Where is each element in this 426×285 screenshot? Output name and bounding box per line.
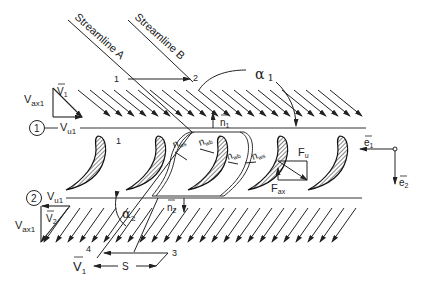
vector-overbars [47, 84, 407, 257]
inlet-flow-arrows [78, 90, 362, 116]
alpha1-pointer [276, 82, 296, 126]
alpha1-label: α1 [255, 66, 274, 83]
station-1-vu-label: Vu1 [60, 121, 77, 136]
station-2-vu-label: Vu1 [47, 190, 64, 205]
blade-5 [308, 136, 348, 190]
outlet-flow-arrows [44, 208, 356, 242]
outlet-v2-label: V2 [46, 213, 57, 225]
streamline-b-lower [134, 198, 158, 252]
exit-velocity-label: V1 [73, 259, 87, 276]
cascade-diagram: Streamline A Streamline B 1 2 3 4 1 1 2 … [0, 0, 426, 285]
station-1-number: 1 [34, 123, 40, 134]
normal-ws-left-line [175, 152, 187, 160]
alpha1-arc [199, 70, 246, 90]
normal-n1-label: n1 [220, 117, 230, 129]
point-4-label: 4 [86, 244, 91, 254]
pitch-s-label: S [122, 261, 129, 272]
unit-e1-label: e1 [364, 137, 374, 149]
passage-label: 1 [116, 136, 121, 146]
station-2-number: 2 [31, 193, 37, 204]
point-2-label: 2 [193, 73, 198, 83]
force-triangle [278, 161, 307, 180]
inlet-vax-label: Vax1 [24, 93, 45, 108]
normal-wb-line [200, 149, 214, 153]
streamline-a [68, 20, 192, 132]
force-fu-label: Fu [298, 146, 309, 159]
streamline-a-label: Streamline A [73, 11, 128, 62]
normal-wb-label: nwb [197, 133, 214, 149]
outlet-vax-label: Vax1 [15, 219, 36, 234]
normal-wb-right-line [228, 162, 238, 164]
unit-vectors [360, 147, 397, 184]
blade-1 [66, 136, 106, 190]
inlet-v1-label: V1 [57, 86, 68, 98]
point-3-label: 3 [172, 248, 177, 258]
normal-n2-label: n2 [167, 202, 177, 214]
normal-ws-right-line [245, 162, 256, 163]
pitch-s-edge [156, 253, 168, 266]
unit-e2-label: e2 [399, 177, 409, 189]
point-1-label: 1 [114, 74, 119, 84]
force-fax-label: Fax [271, 182, 286, 195]
blade-2 [126, 136, 166, 190]
streamline-b-label: Streamline B [133, 11, 188, 62]
